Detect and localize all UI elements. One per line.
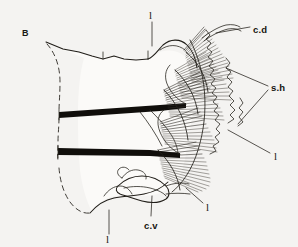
label-l-bottom: l — [106, 233, 109, 245]
dorsal-outline — [46, 42, 148, 60]
leader-c-d — [216, 27, 250, 33]
body-fill-group — [47, 43, 197, 212]
leader-l-right-1 — [228, 130, 270, 153]
label-c-d: c.d — [253, 24, 267, 35]
body-margin-dashed — [47, 44, 60, 112]
label-l-right-1: l — [274, 150, 277, 162]
label-c-v: c.v — [144, 220, 158, 231]
chaetae-bundle-upper — [184, 27, 233, 82]
label-l-right-2: l — [206, 201, 209, 213]
figure-svg: B c.d s.h c.v l l l l — [0, 0, 298, 247]
panel-label-b: B — [22, 28, 29, 38]
leader-c-v — [151, 196, 152, 216]
leader-s-h — [226, 68, 268, 86]
dorsal-inner-arc — [160, 46, 185, 51]
cv-tail-right-2 — [166, 193, 190, 194]
figure-plate: B c.d s.h c.v l l l l — [0, 0, 298, 247]
body-fill — [47, 43, 197, 212]
leader-s-h-2 — [238, 90, 268, 124]
label-l-top: l — [149, 9, 152, 21]
label-s-h: s.h — [271, 82, 285, 93]
